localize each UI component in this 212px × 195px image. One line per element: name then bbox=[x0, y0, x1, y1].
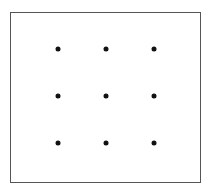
dot-r2-c2 bbox=[104, 94, 109, 99]
dot-r2-c3 bbox=[152, 94, 157, 99]
dot-r3-c3 bbox=[152, 141, 157, 146]
dot-r3-c2 bbox=[104, 141, 109, 146]
dot-r1-c1 bbox=[56, 47, 61, 52]
dot-r2-c1 bbox=[56, 94, 61, 99]
dot-r1-c2 bbox=[104, 47, 109, 52]
dot-r1-c3 bbox=[152, 47, 157, 52]
dot-r3-c1 bbox=[56, 141, 61, 146]
